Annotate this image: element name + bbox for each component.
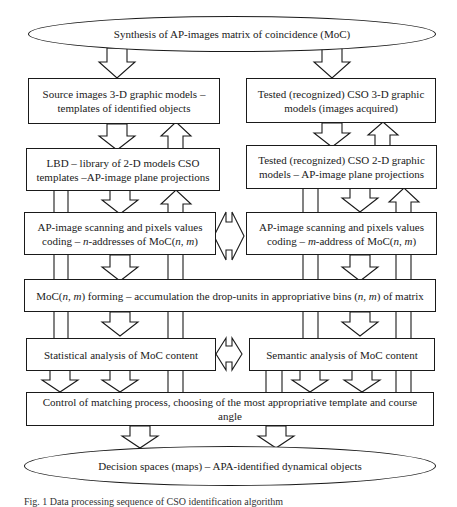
scanning-n-line2: coding – n-addresses of MoC(n, m) (38, 234, 203, 248)
synthesis-label: Synthesis of AP-images matrix of coincid… (114, 28, 350, 40)
synthesis-ellipse: Synthesis of AP-images matrix of coincid… (28, 16, 436, 52)
scanning-m-box: AP-image scanning and pixels values codi… (246, 212, 437, 255)
tested-2d-box: Tested (recognized) CSO 2-D graphic mode… (246, 145, 437, 189)
tested-2d-line1: Tested (recognized) CSO 2-D graphic (258, 153, 425, 167)
control-matching-box: Control of matching process, choosing of… (26, 392, 434, 426)
tested-2d-line2: models – AP-image plane projections (258, 167, 425, 181)
statistical-analysis-box: Statistical analysis of MoC content (26, 338, 216, 371)
control-matching-label: Control of matching process, choosing of… (33, 395, 427, 423)
source-images-line1: Source images 3-D graphic models – (43, 87, 206, 101)
moc-forming-label: MoC(n, m) forming – accumulation the dro… (36, 289, 424, 303)
semantic-analysis-box: Semantic analysis of MoC content (249, 338, 435, 371)
lbd-line1: LBD – library of 2-D models CSO (36, 156, 209, 170)
figure-caption: Fig. 1 Data processing sequence of CSO i… (24, 496, 283, 507)
lbd-line2: templates –AP-image plane projections (36, 170, 209, 184)
semantic-analysis-label: Semantic analysis of MoC content (266, 348, 418, 362)
tested-3d-line1: Tested (recognized) CSO 3-D graphic (258, 87, 425, 101)
scanning-n-line1: AP-image scanning and pixels values (38, 220, 203, 234)
scanning-m-line2: coding – m-address of MoC(n, m) (259, 234, 424, 248)
scanning-n-box: AP-image scanning and pixels values codi… (24, 212, 216, 255)
decision-spaces-label: Decision spaces (maps) – APA-identified … (98, 460, 362, 472)
lbd-library-box: LBD – library of 2-D models CSO template… (26, 148, 220, 191)
tested-3d-box: Tested (recognized) CSO 3-D graphic mode… (246, 78, 436, 123)
source-images-line2: templates of identified objects (43, 101, 206, 115)
statistical-analysis-label: Statistical analysis of MoC content (44, 348, 198, 362)
scanning-m-line1: AP-image scanning and pixels values (259, 220, 424, 234)
moc-forming-box: MoC(n, m) forming – accumulation the dro… (24, 279, 436, 312)
source-images-box: Source images 3-D graphic models – templ… (28, 78, 220, 124)
decision-spaces-ellipse: Decision spaces (maps) – APA-identified … (24, 446, 436, 486)
tested-3d-line2: models (images acquired) (258, 101, 425, 115)
